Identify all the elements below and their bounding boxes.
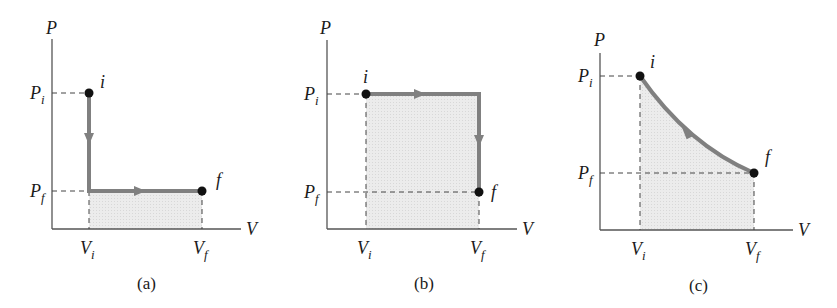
tick-pf-c: Pf [577,163,595,187]
axis-label-v-b: V [522,219,535,239]
tick-vf-b: Vf [470,238,487,262]
process-path-a [89,93,202,191]
caption-c: (c) [689,276,708,295]
tick-vi-a: Vi [80,238,95,262]
work-area-b [366,94,479,229]
point-i-a [85,89,94,98]
tick-vf-c: Vf [745,239,762,263]
work-area-a [89,191,202,229]
point-f-b [475,188,484,197]
axis-label-p-b: P [319,18,331,38]
tick-pi-b: Pi [303,84,319,108]
point-f-c [750,169,759,178]
point-label-f-b: f [491,182,499,202]
tick-pf-a: Pf [29,181,47,205]
arrow-down-icon [84,133,94,145]
point-i-c [636,72,645,81]
point-label-i-c: i [650,52,655,72]
point-label-i-a: i [100,72,105,92]
tick-pi-c: Pi [577,66,593,90]
axis-label-v-c: V [798,220,811,240]
point-f-a [198,187,207,196]
tick-pf-b: Pf [303,182,321,206]
tick-vi-b: Vi [357,238,372,262]
panel-c: P V Pi Pf Vi Vf i f (c) [577,30,811,295]
caption-a: (a) [137,274,156,293]
point-label-f-a: f [216,170,224,190]
tick-vf-a: Vf [193,238,210,262]
point-label-f-c: f [765,147,773,167]
tick-pi-a: Pi [29,83,45,107]
tick-vi-c: Vi [631,239,646,263]
axis-label-p-c: P [593,30,605,50]
panel-a: P V Pi Pf Vi Vf i f (a) [29,18,259,293]
point-i-b [362,90,371,99]
point-label-i-b: i [363,67,368,87]
axis-label-v-a: V [246,219,259,239]
axis-label-p-a: P [45,18,57,38]
pv-diagrams: P V Pi Pf Vi Vf i f (a) P V Pi Pf Vi Vf … [0,0,837,308]
caption-b: (b) [414,274,434,293]
panel-b: P V Pi Pf Vi Vf i f (b) [303,18,535,293]
